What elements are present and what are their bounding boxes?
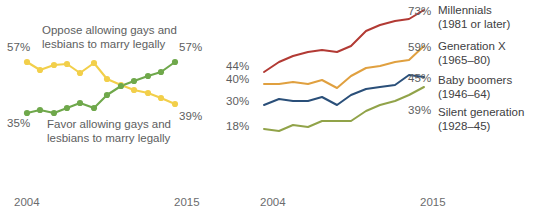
genx-end-value: 59% [408, 41, 431, 55]
legend-sublabel-millennials: (1981 or later) [438, 18, 510, 32]
legend-item-millennials: Millennials (1981 or later) [438, 4, 510, 31]
right-chart-panel: 44% 40% 30% 18% 73% 59% 45% 39% Millenni… [262, 0, 534, 222]
oppose-end-value: 39% [179, 110, 202, 124]
legend-label-genx: Generation X [438, 40, 506, 54]
series-line-silent [264, 87, 424, 131]
legend-item-genx: Generation X (1965–80) [438, 40, 506, 67]
series-line-millennials [264, 10, 424, 72]
oppose-annotation-line2: lesbians to marry legally [42, 37, 165, 51]
legend-label-boomers: Baby boomers [438, 74, 512, 88]
legend-sublabel-genx: (1965–80) [438, 54, 506, 68]
x-axis-end-year: 2015 [420, 196, 446, 208]
x-axis-start-year: 2004 [260, 196, 286, 208]
boomers-end-value: 45% [408, 72, 431, 86]
oppose-start-value: 57% [7, 41, 30, 55]
favor-start-value: 35% [7, 117, 30, 131]
x-axis-end-year: 2015 [174, 196, 200, 208]
x-axis-start-year: 2004 [14, 196, 40, 208]
two-panel-line-chart-figure: 57% 57% 35% 39% Oppose allowing gays and… [0, 0, 534, 222]
millennials-end-value: 73% [408, 5, 431, 19]
millennials-start-value: 44% [226, 60, 249, 74]
legend-sublabel-silent: (1928–45) [438, 120, 524, 134]
legend-label-millennials: Millennials [438, 4, 510, 18]
legend-sublabel-boomers: (1946–64) [438, 88, 512, 102]
silent-end-value: 39% [408, 104, 431, 118]
genx-start-value: 40% [226, 73, 249, 87]
series-line-favor [27, 62, 175, 113]
favor-annotation-line1: Favor allowing gays and [47, 117, 171, 131]
boomers-start-value: 30% [226, 95, 249, 109]
legend-item-silent: Silent generation (1928–45) [438, 106, 524, 133]
legend-label-silent: Silent generation [438, 106, 524, 120]
series-line-oppose [27, 62, 175, 104]
oppose-annotation-line1: Oppose allowing gays and [42, 23, 177, 37]
series-line-boomers [264, 75, 424, 105]
favor-annotation-line2: lesbians to marry legally [47, 131, 170, 145]
legend-item-boomers: Baby boomers (1946–64) [438, 74, 512, 101]
left-chart-panel: 57% 57% 35% 39% Oppose allowing gays and… [0, 0, 262, 222]
favor-end-value: 57% [179, 41, 202, 55]
silent-start-value: 18% [226, 120, 249, 134]
